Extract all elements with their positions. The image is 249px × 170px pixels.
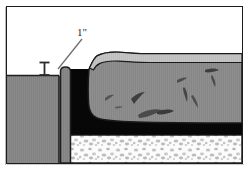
joint-filler-column <box>61 67 71 163</box>
raised-concrete-slab <box>88 52 242 123</box>
gravel-base-course <box>63 135 242 163</box>
diagram-canvas <box>7 7 242 163</box>
diagram-frame: 1" <box>6 6 243 164</box>
figure-root: 1" <box>0 0 249 170</box>
left-concrete-slab <box>7 76 59 164</box>
frame-bottom-shadow <box>7 164 244 165</box>
one-inch-dimension-label: 1" <box>77 27 87 38</box>
